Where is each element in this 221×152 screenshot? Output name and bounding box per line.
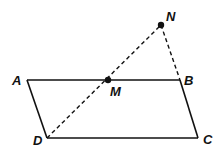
label-d: D bbox=[33, 133, 43, 148]
label-a: A bbox=[11, 73, 21, 88]
label-b: B bbox=[184, 73, 193, 88]
dashed-segment-nb bbox=[161, 25, 180, 80]
label-c: C bbox=[203, 132, 213, 147]
segment-bc bbox=[180, 80, 198, 138]
point-n-dot bbox=[158, 22, 164, 28]
point-m-dot bbox=[105, 77, 111, 83]
label-m: M bbox=[110, 84, 122, 99]
geometry-diagram: A B C D M N bbox=[0, 0, 221, 152]
label-n: N bbox=[166, 9, 176, 24]
dashed-segment-dn bbox=[47, 25, 161, 138]
segment-da bbox=[27, 80, 47, 138]
